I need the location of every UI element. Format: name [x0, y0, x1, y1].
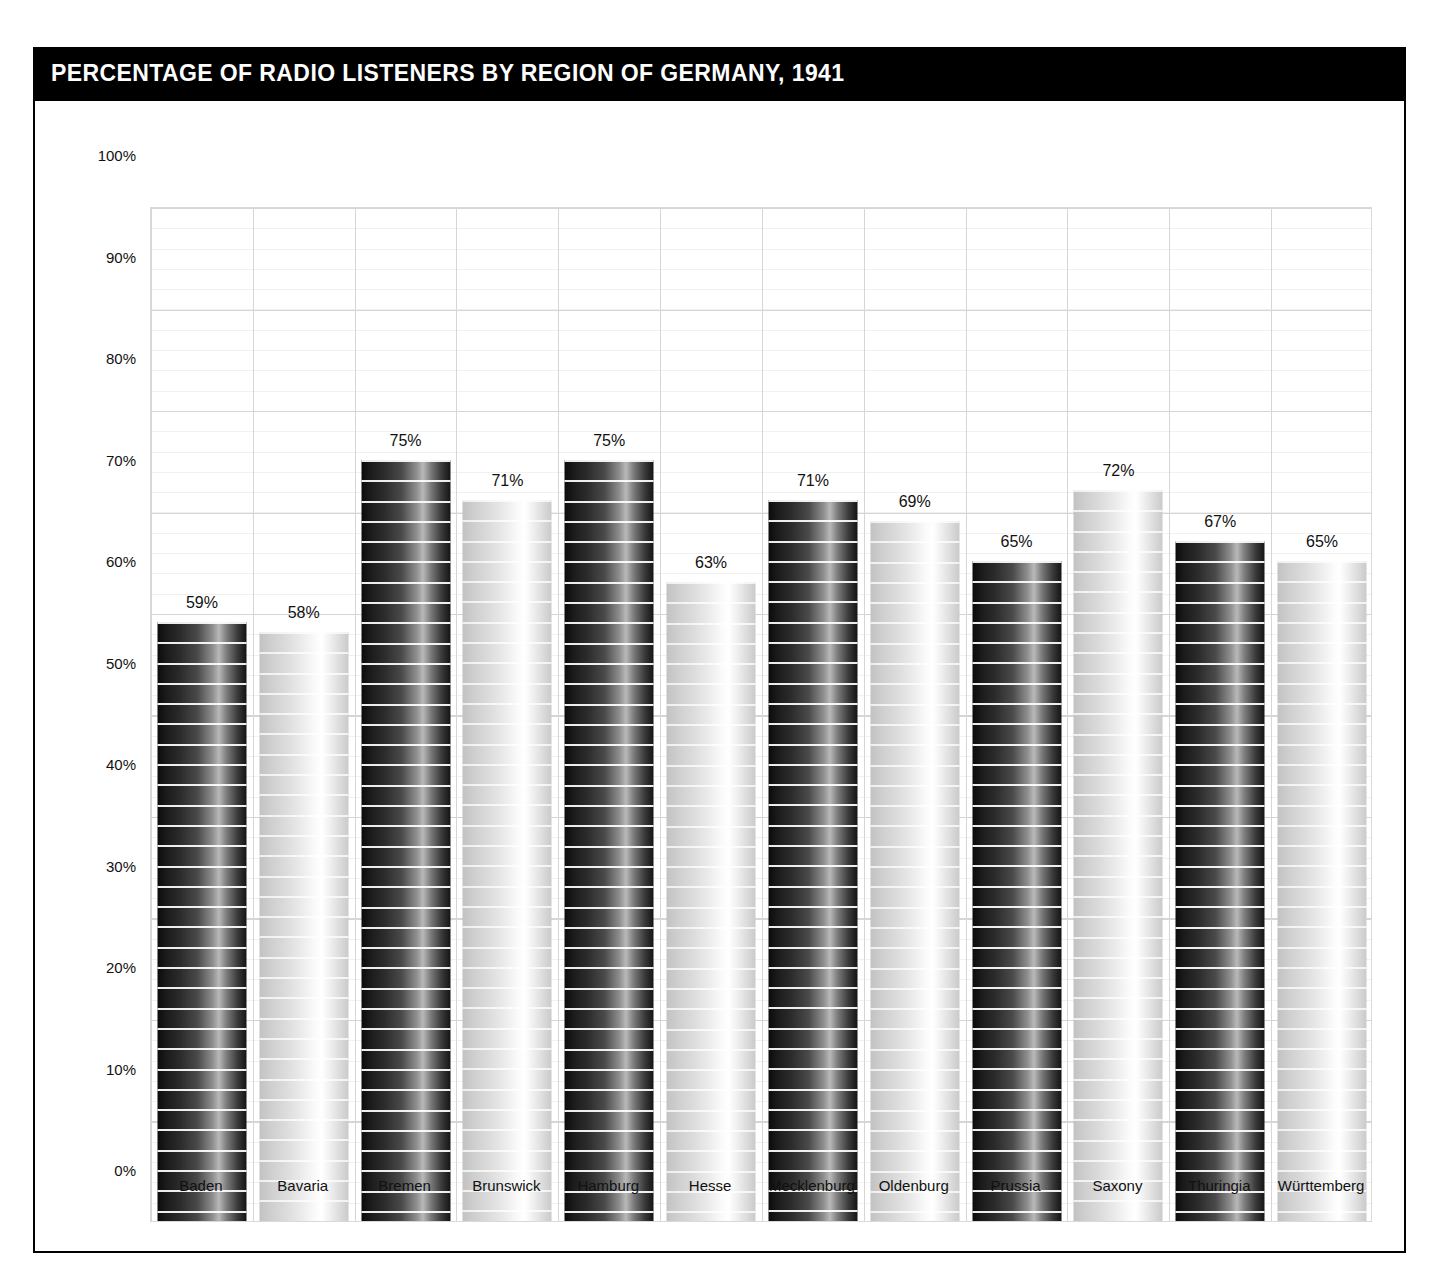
- bar-slot: 71%: [457, 208, 559, 1221]
- bar-fill: [1074, 490, 1163, 1221]
- x-axis-label-hamburg: Hamburg: [557, 1177, 659, 1194]
- bar-value-label: 72%: [1102, 462, 1134, 480]
- bar-bremen[interactable]: [361, 460, 450, 1221]
- bar-fill: [157, 622, 246, 1221]
- bar-slot: 63%: [660, 208, 762, 1221]
- bar-value-label: 65%: [1001, 533, 1033, 551]
- bar-value-label: 65%: [1306, 533, 1338, 551]
- y-axis-tick-70: 70%: [56, 451, 136, 468]
- y-axis-tick-90: 90%: [56, 248, 136, 265]
- x-axis-label-mecklenburg: Mecklenburg: [761, 1177, 863, 1194]
- y-axis-tick-100: 100%: [56, 147, 136, 164]
- bar-fill: [565, 460, 654, 1221]
- x-axis-label-saxony: Saxony: [1067, 1177, 1169, 1194]
- bar-fill: [972, 561, 1061, 1221]
- chart-poster: PERCENTAGE OF RADIO LISTENERS BY REGION …: [33, 47, 1406, 1253]
- y-axis-tick-40: 40%: [56, 756, 136, 773]
- x-axis-label-bremen: Bremen: [354, 1177, 456, 1194]
- bar-fill: [361, 460, 450, 1221]
- bar-fill: [667, 582, 756, 1221]
- bar-saxony[interactable]: [1074, 490, 1163, 1221]
- bar-value-label: 71%: [491, 472, 523, 490]
- bar-fill: [463, 500, 552, 1221]
- y-axis-tick-30: 30%: [56, 857, 136, 874]
- x-axis-label-württemberg: Württemberg: [1270, 1177, 1372, 1194]
- bar-baden[interactable]: [157, 622, 246, 1221]
- y-axis-tick-80: 80%: [56, 350, 136, 367]
- bar-fill: [259, 632, 348, 1221]
- bar-slot: 71%: [762, 208, 864, 1221]
- y-axis-tick-50: 50%: [56, 654, 136, 671]
- bar-hesse[interactable]: [667, 582, 756, 1221]
- bar-slot: 67%: [1169, 208, 1271, 1221]
- bar-value-label: 75%: [593, 432, 625, 450]
- x-axis-label-bavaria: Bavaria: [252, 1177, 354, 1194]
- bar-hamburg[interactable]: [565, 460, 654, 1221]
- bar-value-label: 71%: [797, 472, 829, 490]
- bar-bavaria[interactable]: [259, 632, 348, 1221]
- bar-fill: [1278, 561, 1367, 1221]
- bar-value-label: 75%: [390, 432, 422, 450]
- bar-fill: [1176, 541, 1265, 1221]
- x-axis-label-baden: Baden: [150, 1177, 252, 1194]
- bar-prussia[interactable]: [972, 561, 1061, 1221]
- chart-panel: 59%58%75%71%75%63%71%69%65%72%67%65% 100…: [33, 99, 1406, 1253]
- bar-württemberg[interactable]: [1278, 561, 1367, 1221]
- x-axis-label-prussia: Prussia: [965, 1177, 1067, 1194]
- bar-mecklenburg[interactable]: [768, 500, 857, 1221]
- x-axis-label-brunswick: Brunswick: [456, 1177, 558, 1194]
- bar-slot: 65%: [1271, 208, 1373, 1221]
- x-axis-label-oldenburg: Oldenburg: [863, 1177, 965, 1194]
- bar-slot: 75%: [355, 208, 457, 1221]
- x-axis-label-thuringia: Thuringia: [1168, 1177, 1270, 1194]
- bar-value-label: 58%: [288, 604, 320, 622]
- bar-brunswick[interactable]: [463, 500, 552, 1221]
- bar-slot: 59%: [151, 208, 253, 1221]
- bar-value-label: 59%: [186, 594, 218, 612]
- bar-fill: [768, 500, 857, 1221]
- y-axis-tick-20: 20%: [56, 959, 136, 976]
- plot-area: 59%58%75%71%75%63%71%69%65%72%67%65%: [150, 207, 1372, 1222]
- bar-slot: 75%: [558, 208, 660, 1221]
- title-bar: PERCENTAGE OF RADIO LISTENERS BY REGION …: [33, 47, 1406, 99]
- bar-slot: 69%: [864, 208, 966, 1221]
- y-axis-tick-10: 10%: [56, 1060, 136, 1077]
- x-axis-label-hesse: Hesse: [659, 1177, 761, 1194]
- y-axis-tick-0: 0%: [56, 1162, 136, 1179]
- page-title: PERCENTAGE OF RADIO LISTENERS BY REGION …: [51, 60, 844, 87]
- bar-value-label: 63%: [695, 554, 727, 572]
- bar-thuringia[interactable]: [1176, 541, 1265, 1221]
- bar-slot: 58%: [253, 208, 355, 1221]
- bar-value-label: 69%: [899, 493, 931, 511]
- bar-fill: [870, 521, 959, 1221]
- y-axis-tick-60: 60%: [56, 553, 136, 570]
- bar-value-label: 67%: [1204, 513, 1236, 531]
- bar-slot: 65%: [966, 208, 1068, 1221]
- bar-oldenburg[interactable]: [870, 521, 959, 1221]
- bar-slot: 72%: [1068, 208, 1170, 1221]
